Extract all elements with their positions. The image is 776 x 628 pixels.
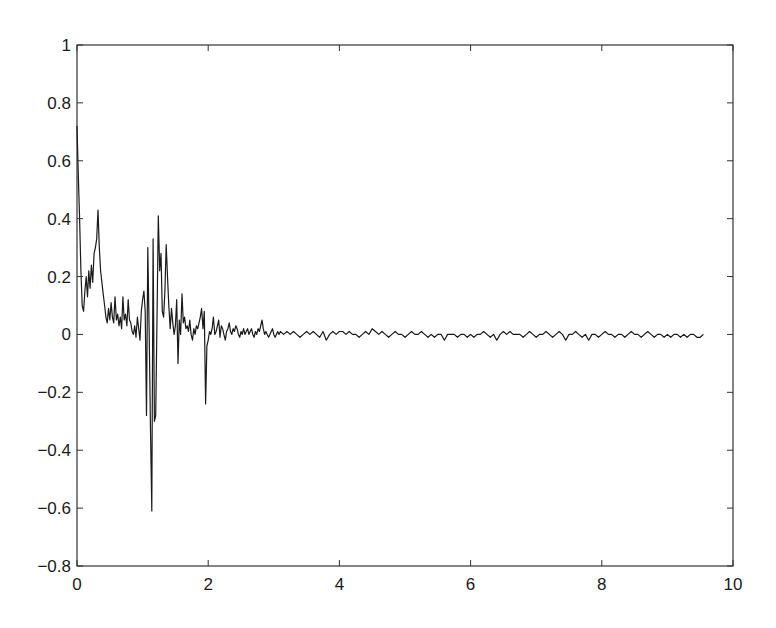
y-tick-label: 0.4 (47, 210, 71, 229)
y-tick-label: −0.4 (37, 441, 71, 460)
y-tick-label: −0.2 (37, 383, 71, 402)
y-tick-label: 0.8 (47, 94, 71, 113)
y-tick-label: −0.6 (37, 499, 71, 518)
x-tick-label: 8 (597, 575, 606, 594)
x-tick-label: 10 (724, 575, 743, 594)
plot-area (77, 45, 733, 566)
line-chart: 0246810 10.80.60.40.20−0.2−0.4−0.6−0.8 (0, 0, 776, 628)
y-tick-label: −0.8 (37, 557, 71, 576)
x-tick-label: 4 (335, 575, 344, 594)
y-tick-label: 0.2 (47, 268, 71, 287)
x-tick-label: 6 (466, 575, 475, 594)
y-tick-label: 1 (62, 36, 71, 55)
y-tick-label: 0 (62, 325, 71, 344)
x-tick-label: 2 (203, 575, 212, 594)
y-tick-label: 0.6 (47, 152, 71, 171)
x-tick-label: 0 (72, 575, 81, 594)
axes-box (77, 45, 733, 566)
